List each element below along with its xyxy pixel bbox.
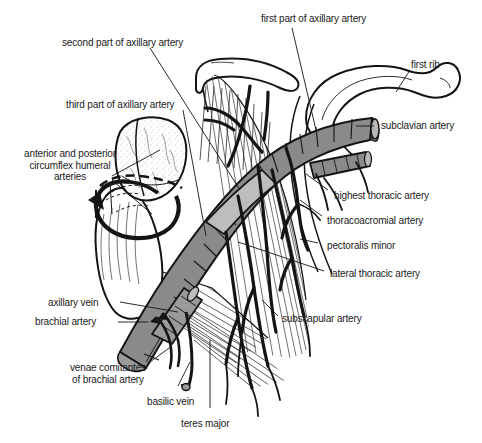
label-subclavian-artery: subclavian artery	[381, 120, 454, 132]
label-axillary-vein: axillary vein	[48, 297, 98, 309]
label-basilic-vein: basilic vein	[147, 396, 194, 408]
label-pectoralis-minor: pectoralis minor	[327, 240, 395, 252]
basilic-vein-lumen	[182, 384, 190, 391]
label-subscapular-artery: subscapular artery	[282, 313, 362, 325]
label-first-part-axillary-artery: first part of axillary artery	[261, 13, 366, 25]
label-teres-major: teres major	[181, 418, 229, 430]
label-circumflex-humeral-arteries: anterior and posterior circumflex humera…	[12, 148, 128, 183]
label-second-part-axillary-artery: second part of axillary artery	[62, 37, 183, 49]
label-highest-thoracic-artery: highest thoracic artery	[334, 190, 429, 202]
label-venae-comitantes: venae comitantes of brachial artery	[58, 362, 158, 385]
label-brachial-artery: brachial artery	[35, 316, 96, 328]
label-third-part-axillary-artery: third part of axillary artery	[66, 99, 174, 111]
label-lateral-thoracic-artery: lateral thoracic artery	[330, 268, 420, 280]
label-first-rib: first rib	[411, 59, 440, 71]
label-thoracoacromial-artery: thoracoacromial artery	[327, 215, 423, 227]
anatomy-figure: first part of axillary artery second par…	[0, 0, 482, 443]
